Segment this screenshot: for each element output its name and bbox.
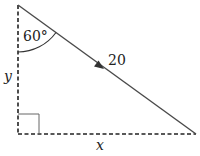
right-triangle-diagram: 60° 20 y x xyxy=(0,0,200,156)
angle-label: 60° xyxy=(23,28,48,44)
side-y-label: y xyxy=(3,68,13,84)
right-angle-marker xyxy=(18,114,39,134)
side-x-label: x xyxy=(96,137,104,153)
hypotenuse-label: 20 xyxy=(108,52,126,68)
hypotenuse-line xyxy=(18,5,196,134)
triangle-svg: 60° 20 y x xyxy=(0,0,200,156)
